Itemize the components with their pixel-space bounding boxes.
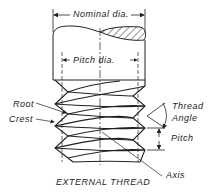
thread-profile (55, 80, 145, 162)
nominal-dia-label: Nominal dia. (73, 10, 129, 19)
thread-angle-mark (147, 103, 167, 128)
external-thread-diagram (0, 0, 217, 194)
pitch-label: Pitch (171, 134, 194, 143)
break-section (53, 26, 146, 40)
crest-label: Crest (9, 115, 33, 124)
diagram-title: EXTERNAL THREAD (56, 178, 150, 187)
pitch-dimension (147, 128, 165, 150)
pitch-dia-label: Pitch dia. (73, 56, 115, 65)
thread-angle-label-2: Angle (172, 114, 198, 123)
root-label: Root (13, 100, 34, 109)
axis-label: Axis (166, 171, 185, 180)
thread-angle-label-1: Thread (172, 102, 204, 111)
